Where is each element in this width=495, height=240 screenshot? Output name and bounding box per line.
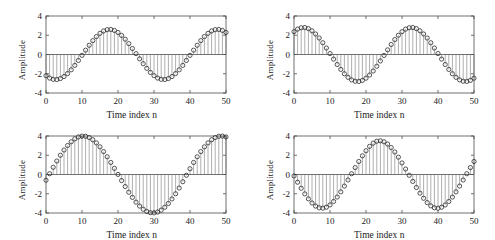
svg-text:30: 30 <box>150 96 160 106</box>
plot-area-bottom-left: 01020304050-4-2024 <box>0 120 248 240</box>
svg-text:10: 10 <box>78 96 88 106</box>
svg-text:0: 0 <box>291 216 296 226</box>
plot-area-top-right: 01020304050-4-2024 <box>248 0 495 120</box>
svg-text:10: 10 <box>325 96 335 106</box>
svg-text:30: 30 <box>397 216 407 226</box>
svg-text:-2: -2 <box>282 69 290 79</box>
subplot-top-left: Amplitude 01020304050-4-2024 Time index … <box>0 0 248 120</box>
svg-text:4: 4 <box>285 131 290 141</box>
svg-text:0: 0 <box>44 216 49 226</box>
svg-text:20: 20 <box>361 96 371 106</box>
svg-text:40: 40 <box>433 96 443 106</box>
svg-text:0: 0 <box>285 170 290 180</box>
svg-text:40: 40 <box>433 216 443 226</box>
svg-text:2: 2 <box>38 30 43 40</box>
svg-text:2: 2 <box>38 150 43 160</box>
svg-text:-2: -2 <box>35 189 43 199</box>
svg-text:10: 10 <box>78 216 88 226</box>
svg-text:4: 4 <box>285 11 290 21</box>
subplot-top-right: Amplitude 01020304050-4-2024 Time index … <box>248 0 495 120</box>
svg-text:-4: -4 <box>35 88 43 98</box>
svg-text:4: 4 <box>38 131 43 141</box>
svg-text:0: 0 <box>291 96 296 106</box>
subplot-bottom-left: Amplitude 01020304050-4-2024 Time index … <box>0 120 248 240</box>
svg-text:-4: -4 <box>35 208 43 218</box>
svg-text:30: 30 <box>150 216 160 226</box>
x-axis-label: Time index n <box>0 110 248 120</box>
x-axis-label: Time index n <box>248 230 495 240</box>
svg-text:20: 20 <box>114 216 124 226</box>
svg-text:0: 0 <box>285 50 290 60</box>
x-axis-label: Time index n <box>0 230 248 240</box>
svg-text:-4: -4 <box>282 208 290 218</box>
svg-text:0: 0 <box>44 96 49 106</box>
svg-text:40: 40 <box>186 216 196 226</box>
svg-text:50: 50 <box>222 96 232 106</box>
svg-text:-2: -2 <box>282 189 290 199</box>
subplot-bottom-right: Amplitude 01020304050-4-2024 Time index … <box>248 120 495 240</box>
svg-text:50: 50 <box>222 216 232 226</box>
svg-text:50: 50 <box>469 96 479 106</box>
svg-text:0: 0 <box>38 50 43 60</box>
svg-text:4: 4 <box>38 11 43 21</box>
svg-text:50: 50 <box>469 216 479 226</box>
x-axis-label: Time index n <box>248 110 495 120</box>
figure-canvas: Amplitude 01020304050-4-2024 Time index … <box>0 0 495 240</box>
svg-text:20: 20 <box>114 96 124 106</box>
svg-text:30: 30 <box>397 96 407 106</box>
plot-area-bottom-right: 01020304050-4-2024 <box>248 120 495 240</box>
svg-text:20: 20 <box>361 216 371 226</box>
svg-text:2: 2 <box>285 150 290 160</box>
svg-text:40: 40 <box>186 96 196 106</box>
svg-text:2: 2 <box>285 30 290 40</box>
svg-text:-2: -2 <box>35 69 43 79</box>
svg-text:0: 0 <box>38 170 43 180</box>
plot-area-top-left: 01020304050-4-2024 <box>0 0 248 120</box>
svg-text:-4: -4 <box>282 88 290 98</box>
svg-text:10: 10 <box>325 216 335 226</box>
